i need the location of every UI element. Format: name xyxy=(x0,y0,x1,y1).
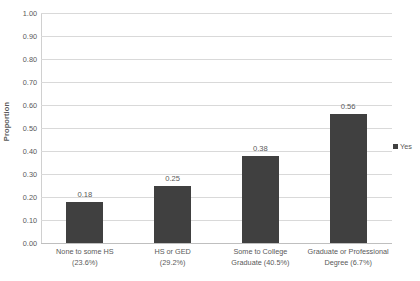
x-axis-category-label-line: Graduate (40.5%) xyxy=(231,258,289,269)
x-axis-category-label-line: None to some HS xyxy=(56,247,114,258)
y-axis-title-text: Proportion xyxy=(3,102,12,141)
y-axis-tick-label: 0.00 xyxy=(23,239,37,248)
bar-value-label: 0.56 xyxy=(341,102,356,111)
x-axis-category-label-line: (23.6%) xyxy=(56,258,114,269)
y-axis-tick-label: 0.70 xyxy=(23,78,37,87)
y-axis-tick-label: 0.30 xyxy=(23,170,37,179)
x-axis-category-label: None to some HS(23.6%) xyxy=(56,247,114,268)
x-axis-category-label-line: Graduate or Professional xyxy=(308,247,389,258)
y-axis-tick-label: 0.40 xyxy=(23,147,37,156)
y-axis-tick-label: 0.50 xyxy=(23,124,37,133)
x-axis-category-label: Some to CollegeGraduate (40.5%) xyxy=(231,247,289,268)
bar[interactable] xyxy=(66,202,103,243)
y-axis-tick-label: 0.80 xyxy=(23,55,37,64)
y-axis-tick-labels: 0.000.100.200.300.400.500.600.700.800.90… xyxy=(14,0,40,281)
bar-value-label: 0.25 xyxy=(165,174,180,183)
gridline xyxy=(41,243,392,244)
bar-chart: Proportion 0.000.100.200.300.400.500.600… xyxy=(0,0,420,281)
x-axis-category-labels: None to some HS(23.6%)HS or GED(29.2%)So… xyxy=(41,247,392,281)
x-axis-category-label-line: (29.2%) xyxy=(154,258,191,269)
x-axis-category-label: Graduate or ProfessionalDegree (6.7%) xyxy=(308,247,389,268)
legend-item-label: Yes xyxy=(400,142,412,151)
bar[interactable] xyxy=(154,186,191,244)
bars: 0.180.250.380.56 xyxy=(41,13,392,243)
x-axis-category-label-line: Degree (6.7%) xyxy=(308,258,389,269)
x-axis-category-label-line: HS or GED xyxy=(154,247,191,258)
bar-value-label: 0.38 xyxy=(253,144,268,153)
y-axis-tick-label: 1.00 xyxy=(23,9,37,18)
bar[interactable] xyxy=(330,114,367,243)
legend: Yes xyxy=(393,142,412,151)
bar[interactable] xyxy=(242,156,279,243)
y-axis-tick-label: 0.90 xyxy=(23,32,37,41)
y-axis-tick-label: 0.60 xyxy=(23,101,37,110)
y-axis-title: Proportion xyxy=(0,0,14,243)
legend-swatch-icon xyxy=(393,144,398,149)
x-axis-category-label: HS or GED(29.2%) xyxy=(154,247,191,268)
y-axis-tick-label: 0.20 xyxy=(23,193,37,202)
bar-value-label: 0.18 xyxy=(77,190,92,199)
x-axis-category-label-line: Some to College xyxy=(231,247,289,258)
y-axis-tick-label: 0.10 xyxy=(23,216,37,225)
plot-area: 0.180.250.380.56 xyxy=(41,13,392,243)
